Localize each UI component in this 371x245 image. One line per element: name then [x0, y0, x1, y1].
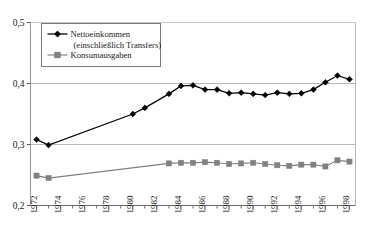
x-tick-label-2: 1976	[77, 195, 87, 214]
x-tick-label-0: 1972	[29, 196, 39, 214]
data-point[interactable]	[274, 90, 280, 96]
data-point[interactable]	[262, 92, 268, 98]
data-point[interactable]	[46, 142, 52, 148]
x-tick-label-7: 1986	[197, 195, 207, 214]
data-point[interactable]	[299, 162, 304, 167]
series-1	[34, 73, 353, 148]
x-tick-label-6: 1984	[173, 195, 183, 214]
legend-marker-square-icon	[55, 52, 61, 58]
data-point[interactable]	[347, 159, 352, 164]
legend: Nettoeinkommen(einschließlich Transfers)…	[42, 24, 162, 67]
x-tick-label-8: 1988	[221, 195, 231, 214]
x-tick-label-5: 1982	[149, 196, 159, 214]
data-point[interactable]	[275, 163, 280, 168]
x-tick-label-9: 1990	[245, 195, 255, 214]
data-point[interactable]	[335, 73, 341, 79]
x-tick-label-13: 1998	[341, 195, 351, 214]
data-point[interactable]	[347, 76, 353, 82]
data-point[interactable]	[310, 87, 316, 93]
data-point[interactable]	[166, 161, 171, 166]
data-point[interactable]	[323, 79, 329, 85]
x-tick-label-1: 1974	[53, 195, 63, 214]
x-tick-label-3: 1978	[101, 195, 111, 214]
data-point[interactable]	[130, 111, 136, 117]
x-tick-label-4: 1980	[125, 195, 135, 214]
data-point[interactable]	[298, 90, 304, 96]
y-tick-label-0: 0,2	[13, 201, 25, 211]
x-tick-label-12: 1996	[317, 195, 327, 214]
x-tick-label-11: 1994	[293, 195, 303, 214]
chart-figure: 0,20,30,40,51972197419761978198019821984…	[0, 0, 371, 245]
y-tick-label-3: 0,5	[13, 18, 25, 28]
x-tick-label-10: 1992	[269, 196, 279, 214]
data-point[interactable]	[335, 158, 340, 163]
series-2	[34, 158, 352, 181]
data-point[interactable]	[323, 164, 328, 169]
data-point[interactable]	[238, 90, 244, 96]
data-point[interactable]	[263, 161, 268, 166]
legend-label-1-line2: (einschließlich Transfers)	[74, 40, 162, 50]
y-tick-label-1: 0,3	[13, 140, 25, 150]
data-point[interactable]	[287, 163, 292, 168]
legend-label-1: Nettoeinkommen	[71, 29, 131, 39]
data-point[interactable]	[226, 90, 232, 96]
line-chart: 0,20,30,40,51972197419761978198019821984…	[0, 0, 371, 245]
data-point[interactable]	[34, 173, 39, 178]
data-point[interactable]	[227, 161, 232, 166]
data-point[interactable]	[214, 87, 220, 93]
y-tick-label-2: 0,4	[13, 79, 25, 89]
data-point[interactable]	[46, 175, 51, 180]
data-point[interactable]	[178, 160, 183, 165]
data-point[interactable]	[250, 91, 256, 97]
data-point[interactable]	[34, 137, 40, 143]
data-point[interactable]	[251, 160, 256, 165]
data-point[interactable]	[311, 162, 316, 167]
data-point[interactable]	[202, 87, 208, 93]
legend-label-2: Konsumausgaben	[71, 50, 133, 60]
data-point[interactable]	[239, 161, 244, 166]
data-point[interactable]	[142, 105, 148, 111]
data-point[interactable]	[214, 160, 219, 165]
data-point[interactable]	[286, 91, 292, 97]
data-point[interactable]	[202, 160, 207, 165]
data-point[interactable]	[190, 160, 195, 165]
